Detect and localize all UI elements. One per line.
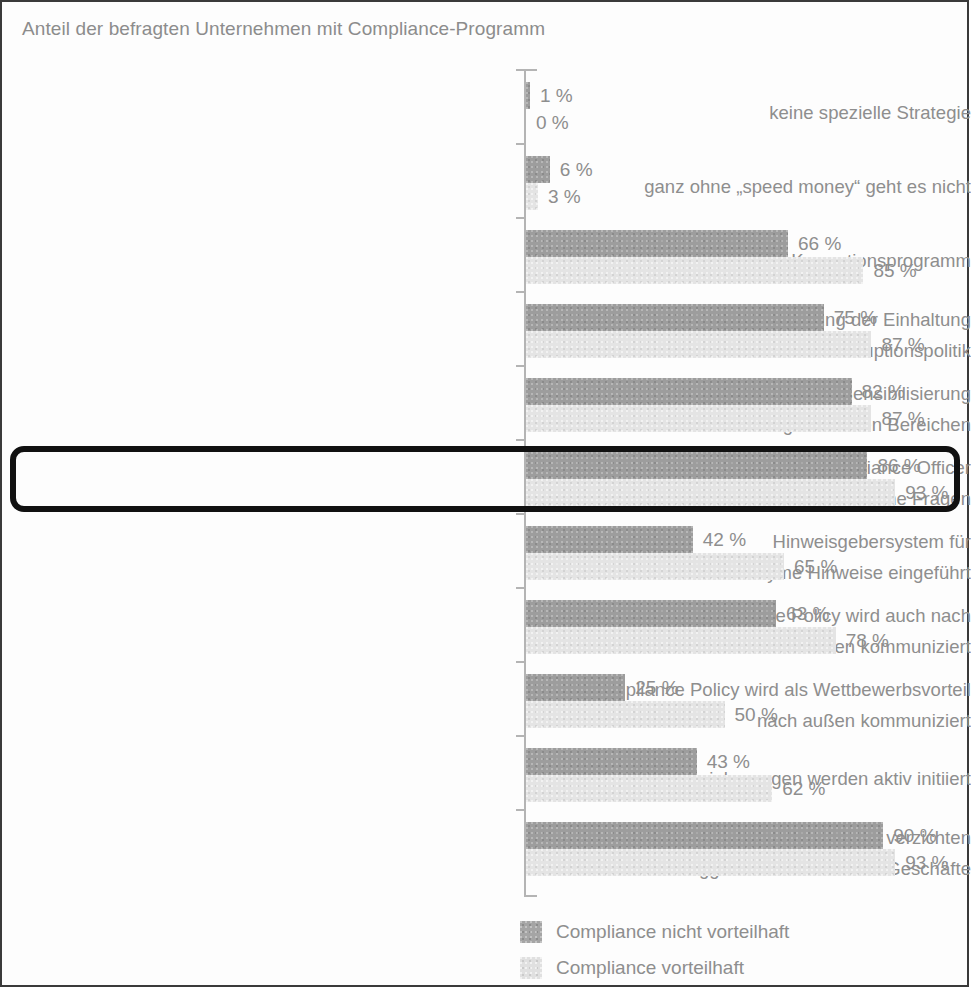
- bar-value-label: 75 %: [834, 307, 877, 329]
- bar-series-nicht-vorteilhaft: 66 %: [526, 230, 788, 257]
- bar-value-label: 87 %: [881, 334, 924, 356]
- bar-value-label: 1 %: [540, 85, 573, 107]
- bar-value-label: 78 %: [846, 630, 889, 652]
- bar-value-label: 62 %: [782, 778, 825, 800]
- bar-value-label: 90 %: [893, 825, 936, 847]
- bar-value-label: 87 %: [881, 408, 924, 430]
- bar-pair: 75 %87 %: [526, 304, 871, 358]
- bar-value-label: 6 %: [560, 159, 593, 181]
- bar-pair: 63 %78 %: [526, 600, 836, 654]
- legend-swatch-icon: [520, 957, 542, 979]
- axis-tick: [516, 735, 526, 737]
- bar-pair: 42 %65 %: [526, 526, 784, 580]
- axis-tick: [516, 513, 526, 515]
- bar-series-vorteilhaft: 93 %: [526, 849, 895, 876]
- legend-item[interactable]: Compliance vorteilhaft: [520, 950, 789, 986]
- bar-pair: 25 %50 %: [526, 674, 725, 728]
- bar-value-label: 66 %: [798, 233, 841, 255]
- bar-value-label: 63 %: [786, 603, 829, 625]
- bar-series-vorteilhaft: 65 %: [526, 553, 784, 580]
- bar-value-label: 65 %: [794, 556, 837, 578]
- bar-pair: 90 %93 %: [526, 822, 895, 876]
- bar-pair: 86 %93 %: [526, 452, 895, 506]
- bar-series-vorteilhaft: 50 %: [526, 701, 725, 728]
- bar-value-label: 0 %: [536, 112, 569, 134]
- bar-series-vorteilhaft: 78 %: [526, 627, 836, 654]
- bar-value-label: 50 %: [735, 704, 778, 726]
- bar-series-vorteilhaft: 87 %: [526, 331, 871, 358]
- legend-swatch-icon: [520, 921, 542, 943]
- axis-tick: [516, 587, 526, 589]
- bar-series-nicht-vorteilhaft: 25 %: [526, 674, 625, 701]
- bar-series-nicht-vorteilhaft: 6 %: [526, 156, 550, 183]
- bar-value-label: 43 %: [707, 751, 750, 773]
- axis-tick: [516, 809, 526, 811]
- bar-value-label: 3 %: [548, 186, 581, 208]
- bar-series-vorteilhaft: 85 %: [526, 257, 863, 284]
- bar-series-vorteilhaft: 93 %: [526, 479, 895, 506]
- bar-series-nicht-vorteilhaft: 82 %: [526, 378, 852, 405]
- bar-pair: 82 %87 %: [526, 378, 871, 432]
- axis-tick: [516, 439, 526, 441]
- axis-cap-bottom: [524, 895, 537, 897]
- legend-label: Compliance nicht vorteilhaft: [556, 921, 789, 943]
- bar-series-vorteilhaft: 87 %: [526, 405, 871, 432]
- axis-tick: [516, 143, 526, 145]
- bar-value-label: 42 %: [703, 529, 746, 551]
- axis-tick: [516, 291, 526, 293]
- axis-tick: [516, 69, 526, 71]
- bar-value-label: 85 %: [873, 260, 916, 282]
- chart-legend: Compliance nicht vorteilhaftCompliance v…: [520, 914, 789, 986]
- bar-series-nicht-vorteilhaft: 1 %: [526, 82, 530, 109]
- bar-series-nicht-vorteilhaft: 90 %: [526, 822, 883, 849]
- bar-value-label: 25 %: [635, 677, 678, 699]
- bar-series-nicht-vorteilhaft: 86 %: [526, 452, 867, 479]
- bar-value-label: 93 %: [905, 852, 948, 874]
- bar-series-nicht-vorteilhaft: 75 %: [526, 304, 824, 331]
- bar-series-nicht-vorteilhaft: 63 %: [526, 600, 776, 627]
- bar-series-vorteilhaft: 3 %: [526, 183, 538, 210]
- bar-series-nicht-vorteilhaft: 43 %: [526, 748, 697, 775]
- bar-pair: 43 %62 %: [526, 748, 772, 802]
- bar-value-label: 93 %: [905, 482, 948, 504]
- bar-pair: 6 %3 %: [526, 156, 550, 210]
- bar-series-vorteilhaft: 62 %: [526, 775, 772, 802]
- legend-item[interactable]: Compliance nicht vorteilhaft: [520, 914, 789, 950]
- plot-area: keine spezielle Strategie1 %0 %ganz ohne…: [2, 64, 971, 904]
- axis-tick: [516, 217, 526, 219]
- bar-value-label: 82 %: [862, 381, 905, 403]
- bar-value-label: 86 %: [877, 455, 920, 477]
- chart-title: Anteil der befragten Unternehmen mit Com…: [22, 18, 545, 40]
- legend-label: Compliance vorteilhaft: [556, 957, 744, 979]
- axis-tick: [516, 661, 526, 663]
- bar-pair: 1 %0 %: [526, 82, 530, 136]
- bar-pair: 66 %85 %: [526, 230, 863, 284]
- bar-series-nicht-vorteilhaft: 42 %: [526, 526, 693, 553]
- axis-tick: [516, 365, 526, 367]
